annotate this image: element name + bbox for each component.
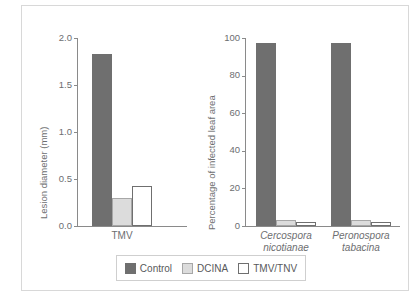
legend-item-control: Control	[125, 263, 172, 274]
right-chart-ytick-100	[242, 38, 246, 39]
right-chart-ytick-60	[242, 113, 246, 114]
left-chart-ytick-1-0	[74, 132, 78, 133]
left-chart-ytick-label-0-5: 0.5	[48, 174, 72, 184]
right-chart-bar-dcina-peronospora	[351, 220, 371, 226]
left-chart-category-label-tmv: TMV	[92, 230, 152, 242]
right-chart-ytick-label-100: 100	[214, 33, 240, 43]
left-chart-ytick-2-0	[74, 38, 78, 39]
left-chart-ytick-1-5	[74, 85, 78, 86]
left-chart-bar-tmvtnv	[132, 186, 152, 226]
right-chart-bar-control-cercospora	[256, 43, 276, 226]
left-chart-ytick-label-1-0: 1.0	[48, 127, 72, 137]
right-chart-bar-tmvtnv-cercospora	[296, 222, 316, 226]
left-chart-ytick-label-1-5: 1.5	[48, 80, 72, 90]
right-chart-category-label-peronospora-line1: Peronospora	[313, 230, 409, 242]
right-chart-ytick-label-0: 0	[214, 221, 240, 231]
left-chart-ytick-label-2-0: 2.0	[48, 33, 72, 43]
right-chart-ytick-label-20: 20	[214, 183, 240, 193]
right-chart-bar-tmvtnv-peronospora	[371, 222, 391, 226]
chart-right: Percentage of infected leaf area 100 80 …	[200, 14, 400, 244]
left-chart-x-axis	[77, 226, 187, 227]
legend-swatch-tmvtnv-icon	[238, 263, 249, 274]
right-chart-category-label-peronospora: Peronospora tabacina	[313, 230, 409, 253]
right-chart-ytick-40	[242, 151, 246, 152]
right-chart-y-axis	[245, 38, 246, 226]
chart-left: Lesion diameter (mm) 2.0 1.5 1.0 0.5 0.0…	[32, 14, 192, 244]
left-chart-y-axis-title: Lesion diameter (mm)	[38, 127, 49, 219]
right-chart-ytick-0	[242, 226, 246, 227]
right-chart-category-label-peronospora-line2: tabacina	[313, 242, 409, 254]
left-chart-ytick-0-5	[74, 179, 78, 180]
legend-item-dcina: DCINA	[182, 263, 228, 274]
chart-legend: Control DCINA TMV/TNV	[116, 255, 306, 281]
left-chart-bar-dcina	[112, 198, 132, 226]
right-chart-x-axis	[245, 226, 400, 227]
right-chart-ytick-label-40: 40	[214, 145, 240, 155]
right-chart-ytick-label-80: 80	[214, 70, 240, 80]
legend-swatch-control-icon	[125, 263, 136, 274]
left-chart-ytick-label-0-0: 0.0	[48, 221, 72, 231]
right-chart-ytick-20	[242, 188, 246, 189]
right-chart-bar-dcina-cercospora	[276, 220, 296, 226]
figure-root: Lesion diameter (mm) 2.0 1.5 1.0 0.5 0.0…	[0, 0, 416, 300]
legend-label-tmvtnv: TMV/TNV	[253, 263, 297, 274]
right-chart-bar-control-peronospora	[331, 43, 351, 226]
legend-label-dcina: DCINA	[197, 263, 228, 274]
left-chart-ytick-0-0	[74, 226, 78, 227]
legend-swatch-dcina-icon	[182, 263, 193, 274]
legend-label-control: Control	[140, 263, 172, 274]
right-chart-ytick-label-60: 60	[214, 108, 240, 118]
left-chart-bar-control	[92, 54, 112, 226]
right-chart-ytick-80	[242, 76, 246, 77]
legend-item-tmvtnv: TMV/TNV	[238, 263, 297, 274]
